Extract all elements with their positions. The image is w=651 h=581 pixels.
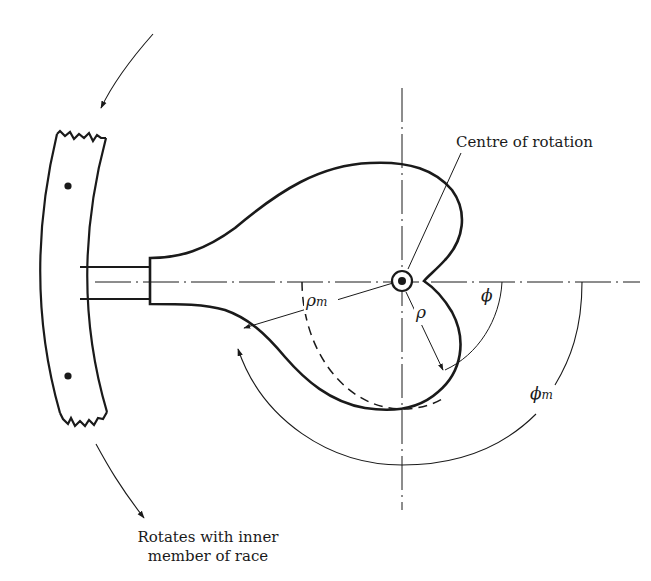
rotates-with-inner-member-caption: Rotates with inner member of race [118,528,298,566]
race-segment [40,131,107,426]
rotation-arrow-bottom [96,444,144,518]
rho-m-label: ρm [306,290,327,310]
phi-label: ϕ [481,285,493,305]
race-bottom-break [60,412,107,426]
rho-m-symbol: ρ [306,290,316,310]
diagram-canvas: Centre of rotation ρm ρ ϕ ϕm Rotates wit… [0,0,651,581]
phi-m-symbol: ϕ [530,383,542,403]
centre-of-rotation-mark [392,271,412,291]
centre-of-rotation-label: Centre of rotation [456,133,593,151]
rotation-arrow-top [101,34,153,108]
rho-label: ρ [416,302,426,322]
phi-angle-arc [445,282,502,370]
cam-profile [150,163,462,410]
race-inner-arc [87,138,107,412]
race-top-break [57,131,106,141]
phi-m-label: ϕm [530,383,553,403]
centre-inner-dot [398,277,406,285]
centre-lines [95,88,640,510]
race-outer-arc [40,134,60,413]
rivet-dot-bottom [64,372,71,379]
stem [80,258,150,304]
caption-line-1: Rotates with inner [118,528,298,547]
phi-m-angle-arc [238,282,582,465]
rho-m-subscript: m [316,295,327,309]
phi-m-subscript: m [542,388,553,402]
caption-line-2: member of race [118,547,298,566]
rivet-dot-top [64,182,71,189]
